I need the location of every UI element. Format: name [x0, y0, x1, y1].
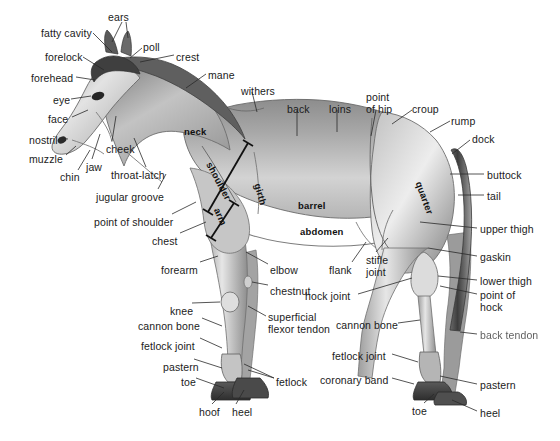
label-chest: chest: [152, 236, 178, 248]
label-dock: dock: [472, 134, 495, 146]
label-knee: knee: [170, 306, 193, 318]
hind-fetlock: [419, 352, 441, 382]
label-face: face: [48, 114, 68, 126]
leader-fetlock-joint-front: [200, 338, 222, 348]
label-back-tendon: back tendon: [480, 330, 538, 342]
label-ears: ears: [108, 12, 129, 24]
label-throat-latch: throat-latch: [111, 170, 165, 182]
label-rump: rump: [451, 116, 475, 128]
label-pastern-hind: pastern: [480, 380, 516, 392]
label-heel-hind: heel: [480, 408, 500, 420]
label-poll: poll: [143, 42, 160, 54]
label-mane: mane: [208, 70, 235, 82]
leader-cannon-bone-front: [202, 318, 222, 326]
label-back: back: [287, 104, 310, 116]
leader-knee: [192, 302, 220, 303]
horse-anatomy-illustration: [0, 0, 560, 441]
knee-shape: [221, 292, 239, 312]
leader-fetlock: [248, 370, 274, 378]
label-buttock: buttock: [487, 170, 522, 182]
label-forehead: forehead: [31, 73, 73, 85]
label-fatty-cavity: fatty cavity: [41, 28, 92, 40]
leader-dock: [452, 140, 470, 154]
label-cannon-bone-front: cannon bone: [138, 321, 200, 333]
label-cannon-bone-hind: cannon bone: [336, 320, 398, 332]
label-forelock: forelock: [45, 52, 83, 64]
label-point-of-hock: point of hock: [480, 290, 515, 313]
label-flank: flank: [329, 265, 352, 277]
label-gaskin: gaskin: [480, 252, 511, 264]
label-withers: withers: [241, 86, 275, 98]
label-toe-front: toe: [181, 377, 196, 389]
label-coronary-band: coronary band: [320, 375, 388, 387]
leader-chest: [180, 222, 206, 233]
inner-label-abdomen: abdomen: [300, 226, 344, 237]
inner-label-barrel: barrel: [298, 200, 326, 211]
label-chin: chin: [60, 172, 80, 184]
label-jaw: jaw: [86, 162, 102, 174]
label-lower-thigh: lower thigh: [480, 276, 532, 288]
label-muzzle: muzzle: [29, 154, 63, 166]
label-elbow: elbow: [270, 265, 298, 277]
inner-label-neck: neck: [184, 126, 206, 137]
label-upper-thigh: upper thigh: [480, 224, 534, 236]
leader-rump: [430, 121, 450, 132]
label-toe-hind: toe: [412, 406, 427, 418]
ear-far: [121, 31, 131, 56]
label-jugular-groove: jugular groove: [96, 192, 164, 204]
label-point-of-shoulder: point of shoulder: [94, 217, 173, 229]
label-hoof: hoof: [199, 407, 220, 419]
label-cheek: cheek: [106, 144, 135, 156]
label-fetlock-joint-hind: fetlock joint: [332, 351, 386, 363]
leader-point-of-shoulder: [172, 202, 196, 214]
far-fore-hoof: [232, 378, 268, 398]
chestnut: [244, 276, 252, 288]
label-forearm: forearm: [161, 265, 198, 277]
label-tail: tail: [487, 191, 501, 203]
leader-ears-a: [112, 22, 122, 42]
label-crest: crest: [176, 52, 199, 64]
leader-fetlock-joint-hind: [392, 354, 418, 362]
label-nostril: nostril: [29, 135, 58, 147]
leader-cannon-bone-hind: [398, 320, 420, 323]
label-croup: croup: [412, 104, 439, 116]
hind-cannon: [418, 296, 436, 354]
label-loins: loins: [329, 104, 351, 116]
leader-jaw: [92, 134, 100, 159]
label-superficial-flexor-tendon: superficial flexor tendon: [268, 312, 330, 335]
label-hock-joint: hock joint: [305, 291, 350, 303]
far-hind-hoof: [434, 392, 467, 405]
label-heel-front: heel: [232, 407, 252, 419]
label-eye: eye: [53, 95, 70, 107]
label-fetlock-joint-front: fetlock joint: [141, 341, 195, 353]
label-point-of-hip: point of hip: [366, 92, 392, 115]
label-stifle-joint: stifle joint: [366, 255, 388, 278]
label-pastern-front: pastern: [163, 362, 199, 374]
label-fetlock: fetlock: [276, 377, 307, 389]
leader-coronary-band: [392, 378, 414, 384]
